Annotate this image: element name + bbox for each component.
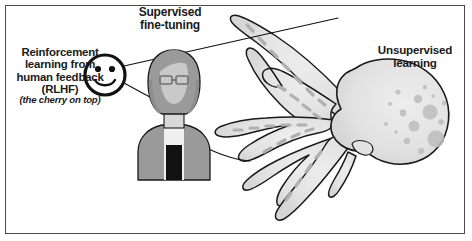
label-rlhf-cherry-on-top: (the cherry on top) xyxy=(6,95,114,105)
octopus-figure xyxy=(0,0,472,241)
person-with-glasses-figure xyxy=(138,50,210,180)
diagram-canvas: Reinforcement learning from human feedba… xyxy=(0,0,472,241)
label-supervised-fine-tuning: Supervised fine-tuning xyxy=(121,6,219,32)
label-unsupervised-learning: Unsupervised learning xyxy=(371,44,459,69)
label-reinforcement-learning-human-feedback: Reinforcement learning from human feedba… xyxy=(6,46,114,95)
